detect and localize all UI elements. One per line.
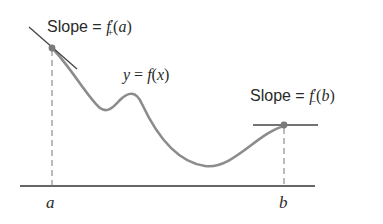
curve-label: y = f(x)	[121, 66, 169, 84]
slope-a-label: Slope = f′+(a)	[47, 16, 132, 38]
slope-b-label: Slope = f′−(b)	[250, 85, 335, 107]
axis-label-b: b	[279, 193, 288, 212]
point-b	[281, 122, 288, 129]
point-a	[49, 45, 56, 52]
axis-label-a: a	[46, 193, 55, 212]
one-sided-derivative-diagram: Slope = f′+(a) y = f(x) Slope = f′−(b) a…	[0, 0, 383, 224]
